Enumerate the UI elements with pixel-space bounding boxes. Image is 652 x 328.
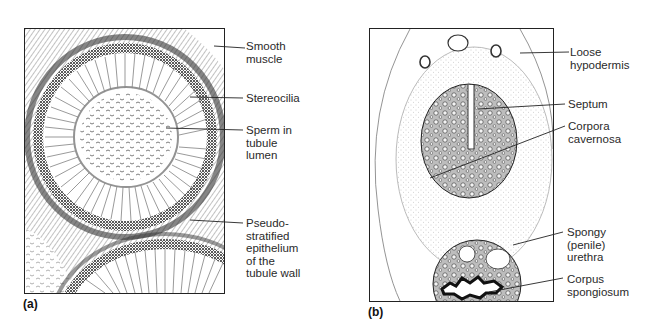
label-corpus-spongiosum: Corpus spongiosum <box>567 273 629 298</box>
label-smooth-muscle: Smooth muscle <box>246 40 286 65</box>
label-pseudostratified-epithelium: Pseudo- stratified epithelium of the tub… <box>246 217 300 280</box>
label-stereocilia: Stereocilia <box>246 92 300 105</box>
panel-b-tag: (b) <box>368 305 383 319</box>
epididymis-drawing <box>25 29 224 293</box>
label-septum: Septum <box>568 98 608 111</box>
label-corpora-cavernosa: Corpora cavernosa <box>568 120 621 145</box>
panel-b-penis-illustration <box>369 28 554 302</box>
panel-a-epididymis-illustration <box>24 28 225 294</box>
label-sperm-in-lumen: Sperm in tubule lumen <box>246 124 292 162</box>
label-loose-hypodermis: Loose hypodermis <box>570 46 629 71</box>
panel-a-tag: (a) <box>23 297 38 311</box>
penis-cross-section-drawing <box>370 29 553 301</box>
label-spongy-urethra: Spongy (penile) urethra <box>567 226 606 264</box>
